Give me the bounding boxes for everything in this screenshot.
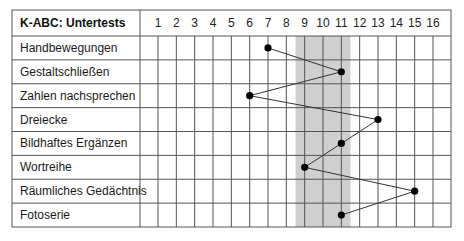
score-tick-label: 12	[353, 16, 367, 30]
score-tick-label: 2	[173, 16, 180, 30]
score-ticks: 12345678910111213141516	[155, 16, 440, 30]
score-tick-label: 4	[210, 16, 217, 30]
score-tick-label: 5	[228, 16, 235, 30]
subtest-label: Fotoserie	[20, 208, 70, 222]
data-point-marker	[264, 44, 271, 51]
score-tick-label: 13	[371, 16, 385, 30]
subtest-label: Räumliches Gedächtnis	[20, 184, 147, 198]
score-tick-label: 10	[316, 16, 330, 30]
subtest-label: Wortreihe	[20, 160, 72, 174]
score-tick-label: 16	[426, 16, 440, 30]
subtest-label: Bildhaftes Ergänzen	[20, 136, 127, 150]
k-abc-profile-chart: HandbewegungenGestaltschließenZahlen nac…	[0, 0, 464, 241]
subtest-label: Gestaltschließen	[20, 65, 109, 79]
data-point-marker	[338, 68, 345, 75]
score-tick-label: 7	[265, 16, 272, 30]
data-point-marker	[338, 211, 345, 218]
score-tick-label: 3	[191, 16, 198, 30]
score-tick-label: 15	[408, 16, 422, 30]
subtest-label: Handbewegungen	[20, 41, 117, 55]
score-tick-label: 9	[301, 16, 308, 30]
data-point-marker	[301, 164, 308, 171]
table-header-title: K-ABC: Untertests	[20, 16, 126, 30]
data-point-marker	[411, 188, 418, 195]
score-tick-label: 14	[390, 16, 404, 30]
subtest-label: Zahlen nachsprechen	[20, 89, 135, 103]
data-point-marker	[374, 116, 381, 123]
score-tick-label: 1	[155, 16, 162, 30]
score-tick-label: 8	[283, 16, 290, 30]
data-point-marker	[246, 92, 253, 99]
data-point-marker	[338, 140, 345, 147]
subtest-label: Dreiecke	[20, 113, 68, 127]
score-tick-label: 11	[335, 16, 348, 30]
score-tick-label: 6	[246, 16, 253, 30]
